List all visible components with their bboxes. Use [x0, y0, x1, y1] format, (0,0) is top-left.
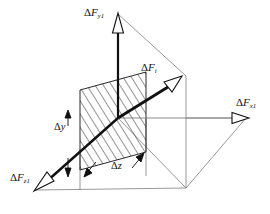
force-symbol: F	[17, 171, 24, 183]
force-decomposition-figure: ΔFy1 ΔFi ΔFx1 ΔFz1 Δy Δz	[0, 0, 270, 214]
dimension-symbol: y	[61, 121, 66, 132]
label-delta-F-y1: ΔFy1	[84, 7, 104, 18]
delta-glyph: Δ	[54, 121, 61, 132]
force-symbol: F	[148, 61, 155, 73]
force-symbol: F	[243, 96, 250, 108]
force-subscript: x1	[250, 102, 256, 109]
label-delta-F-i: ΔFi	[141, 62, 157, 73]
dimension-symbol: z	[118, 160, 122, 171]
force-subscript: y1	[98, 12, 104, 19]
force-subscript: i	[155, 67, 157, 74]
delta-glyph: Δ	[111, 160, 118, 171]
y-arrowhead	[113, 13, 124, 33]
label-delta-F-x1: ΔFx1	[236, 97, 256, 108]
force-subscript: z1	[24, 177, 30, 184]
z-arrowhead	[34, 172, 54, 191]
label-delta-z: Δz	[111, 161, 122, 172]
label-delta-F-z1: ΔFz1	[10, 172, 30, 183]
figure-canvas	[0, 0, 270, 214]
x-arrowhead	[232, 113, 249, 124]
label-delta-y: Δy	[54, 122, 65, 133]
resultant-arrowhead	[164, 76, 182, 92]
force-symbol: F	[91, 6, 98, 18]
